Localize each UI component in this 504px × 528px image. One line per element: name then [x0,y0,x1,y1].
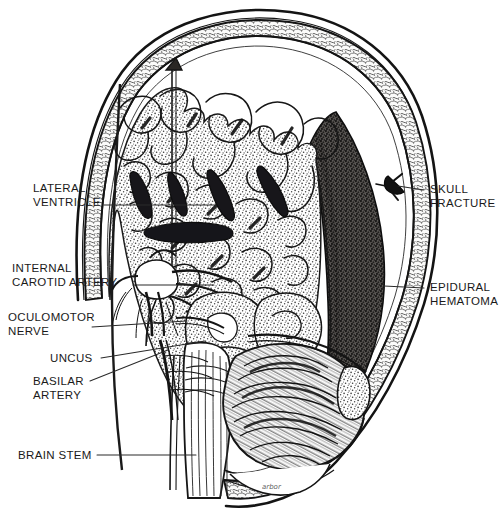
label-oculomotor-nerve: OCULOMOTOR NERVE [8,311,95,338]
transverse-sinus [337,366,370,419]
label-lateral-ventricle: LATERAL VENTRICLE [33,182,101,209]
label-skull-fracture: SKULL FRACTURE [430,183,495,210]
label-basilar-artery: BASILAR ARTERY [33,375,84,402]
label-brain-stem: BRAIN STEM [18,449,92,463]
label-internal-carotid-artery: INTERNAL CAROTID ARTERY [12,262,117,289]
label-uncus: UNCUS [50,352,93,366]
svg-text:arbor: arbor [262,483,282,491]
label-epidural-hematoma: EPIDURAL HEMATOMA [430,281,498,308]
